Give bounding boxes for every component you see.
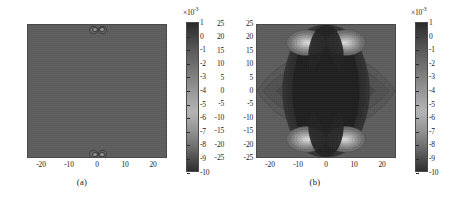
y-tick-label: 15 (228, 47, 253, 55)
x-tick-label: -20 (36, 161, 45, 169)
colorbar-gradient-b (416, 23, 427, 171)
panel-caption-a: (a) (0, 177, 194, 187)
colorbar-header-a: ×10-3 (183, 6, 198, 17)
contour-plot-b (256, 24, 396, 158)
colorbar-tick-label: -1 (427, 46, 435, 54)
colorbar-tick-label: -9 (427, 155, 435, 163)
colorbar-tick-label: -7 (427, 128, 435, 136)
x-tick-label: 10 (121, 161, 128, 169)
colorbar-tick-label: -6 (427, 114, 435, 122)
colorbar-gradient-a (187, 23, 198, 171)
y-tick-label: 0 (228, 87, 253, 95)
colorbar-tick-label: 1 (427, 19, 433, 27)
colorbar-multiplier-mantissa: ×10 (411, 8, 422, 17)
colorbar-a: 1 0 -1 -2 -3 -4 -5 -6 -7 -8 -9 -10 (186, 22, 199, 172)
colorbar-multiplier-mantissa: ×10 (183, 8, 194, 17)
x-tick-label: 20 (378, 161, 385, 169)
y-tick-label: 20 (228, 33, 253, 41)
colorbar-tick-label: -4 (427, 87, 435, 95)
colorbar-tick-label: -1 (198, 46, 206, 54)
colorbar-tick-label: -7 (198, 128, 206, 136)
colorbar-tick-label: 1 (198, 19, 204, 27)
x-tick-label: 20 (149, 161, 156, 169)
y-tick-label: -25 (228, 154, 253, 162)
y-tick-label: 10 (228, 60, 253, 68)
x-tick-label: 0 (95, 161, 99, 169)
colorbar-tick-label: -3 (427, 73, 435, 81)
colorbar-tick-label: -8 (198, 141, 206, 149)
colorbar-tick-label: -5 (427, 101, 435, 109)
x-tick-label: -10 (293, 161, 302, 169)
field-texture-b (257, 25, 395, 157)
feature-lower-blob-a (89, 149, 105, 157)
x-tick-label: -10 (64, 161, 73, 169)
colorbar-tick-label: -4 (198, 87, 206, 95)
y-tick-label: -10 (228, 114, 253, 122)
y-tick-label: 5 (228, 74, 253, 82)
colorbar-tick-label: -6 (198, 114, 206, 122)
contour-plot-a (27, 24, 167, 158)
figure-root: 25 20 15 10 5 0 -5 -10 -15 -20 -25 (0, 0, 449, 204)
colorbar-header-b: ×10-3 (411, 6, 426, 17)
feature-upper-blob-a (89, 25, 105, 33)
colorbar-tick-label: -2 (198, 60, 206, 68)
colorbar-multiplier-exponent: -3 (422, 6, 426, 12)
panel-a: 25 20 15 10 5 0 -5 -10 -15 -20 -25 (0, 0, 224, 204)
colorbar-tick-label: -9 (198, 155, 206, 163)
y-tick-label: -5 (228, 100, 253, 108)
panel-b: 25 20 15 10 5 0 -5 -10 -15 -20 -25 (225, 0, 449, 204)
y-tick-label: -15 (228, 127, 253, 135)
colorbar-multiplier-exponent: -3 (194, 6, 198, 12)
x-tick-label: 10 (350, 161, 357, 169)
colorbar-tick-label: -8 (427, 141, 435, 149)
colorbar-tick-label: -10 (427, 169, 438, 177)
panel-caption-b: (b) (203, 177, 427, 187)
field-texture-a (28, 25, 166, 157)
y-tick-label: -20 (228, 141, 253, 149)
colorbar-b: 1 0 -1 -2 -3 -4 -5 -6 -7 -8 -9 -10 (415, 22, 428, 172)
x-tick-label: -20 (265, 161, 274, 169)
x-tick-label: 0 (324, 161, 328, 169)
colorbar-tick-label: -3 (198, 73, 206, 81)
colorbar-tick-label: -5 (198, 101, 206, 109)
y-tick-label: 25 (228, 20, 253, 28)
colorbar-tick-label: -10 (198, 169, 209, 177)
colorbar-tick-label: 0 (427, 33, 433, 41)
colorbar-tick-label: 0 (198, 33, 204, 41)
colorbar-tick-label: -2 (427, 60, 435, 68)
